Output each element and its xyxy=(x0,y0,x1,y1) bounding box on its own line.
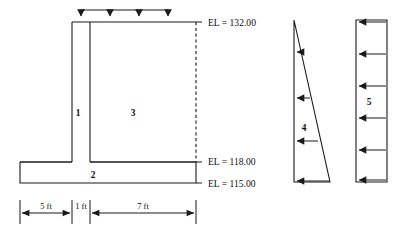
triangular-pressure-diagram xyxy=(294,20,330,182)
footing-outline xyxy=(20,162,196,183)
elevation-label-footing-bottom: EL = 115.00 xyxy=(208,178,256,189)
region-label-5: 5 xyxy=(367,97,372,107)
dimension-label-stem: 1 ft xyxy=(75,201,87,211)
elevation-label-footing-top: EL = 118.00 xyxy=(208,156,256,167)
figure-canvas: EL = 132.00 EL = 118.00 EL = 115.00 1 2 … xyxy=(0,0,396,244)
dimension-label-heel: 7 ft xyxy=(137,201,149,211)
region-label-2: 2 xyxy=(91,170,96,180)
surcharge-load-group xyxy=(81,10,168,16)
dimension-label-toe: 5 ft xyxy=(40,201,52,211)
region-label-4: 4 xyxy=(302,123,307,133)
retaining-wall-figure: EL = 132.00 EL = 118.00 EL = 115.00 1 2 … xyxy=(0,0,396,244)
triangle-outline xyxy=(294,20,330,182)
region-label-3: 3 xyxy=(131,108,136,118)
rectangle-outline xyxy=(356,20,387,182)
region-label-1: 1 xyxy=(76,108,81,118)
elevation-ticks xyxy=(196,22,202,183)
wall-outline xyxy=(20,22,196,183)
elevation-label-top: EL = 132.00 xyxy=(208,17,256,28)
uniform-pressure-diagram xyxy=(356,20,387,182)
